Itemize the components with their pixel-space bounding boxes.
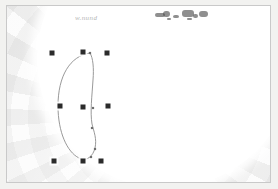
screenshot-canvas: w.nund	[0, 0, 278, 189]
curve-node	[89, 52, 91, 54]
ink-blob	[163, 11, 170, 17]
square-marker	[81, 50, 86, 55]
ink-smudge-group	[155, 10, 208, 20]
handwritten-annotation: w.nund	[75, 14, 97, 22]
ink-blob	[167, 18, 171, 20]
square-marker	[81, 159, 86, 164]
vector-overlay	[7, 6, 271, 183]
square-marker	[106, 104, 111, 109]
curve-node	[94, 148, 96, 150]
ink-blob	[193, 14, 198, 18]
ink-blob	[199, 11, 208, 17]
scan-plate: w.nund	[6, 5, 271, 183]
ink-blob	[182, 10, 194, 17]
ink-blob	[187, 18, 192, 20]
curve-node	[90, 156, 92, 158]
square-marker	[105, 51, 110, 56]
curve-node	[91, 127, 93, 129]
ink-blob	[173, 15, 179, 18]
square-marker	[99, 159, 104, 164]
curve-node	[92, 107, 94, 109]
square-marker	[50, 51, 55, 56]
square-marker-group	[48, 48, 113, 166]
square-marker	[81, 105, 86, 110]
square-marker	[58, 104, 63, 109]
square-marker	[52, 159, 57, 164]
